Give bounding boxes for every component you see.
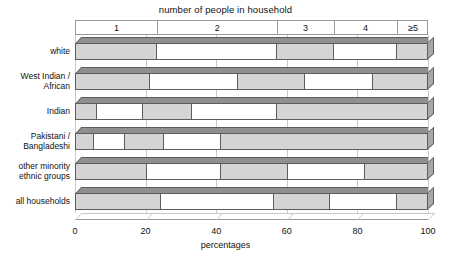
- bar-segment[interactable]: [150, 74, 238, 89]
- bar-side-face-shape: [427, 37, 434, 60]
- bar-front-face: [75, 133, 428, 150]
- category-header-divider: [277, 21, 278, 34]
- x-axis-line: [75, 219, 428, 220]
- bar-segment[interactable]: [157, 44, 277, 59]
- category-header-label: ≥5: [408, 23, 418, 33]
- bar-row: [75, 157, 428, 181]
- bar-row: [75, 127, 428, 151]
- bar-segment[interactable]: [76, 164, 147, 179]
- category-header-divider: [397, 21, 398, 34]
- x-axis-tick-label: 0: [72, 226, 77, 236]
- x-axis-tick-label: 40: [211, 226, 221, 236]
- y-axis-category-label-line: Pakistani /: [0, 131, 70, 141]
- x-axis-tick-label: 20: [141, 226, 151, 236]
- bar-side-face-shape: [427, 187, 434, 210]
- bar-segment[interactable]: [97, 104, 143, 119]
- x-axis-top-edge: [82, 213, 435, 214]
- bar-segment[interactable]: [373, 74, 429, 89]
- y-axis-category-label: all households: [0, 196, 70, 206]
- bar-front-face: [75, 163, 428, 180]
- bar-row: [75, 37, 428, 61]
- category-header-label: 3: [303, 23, 308, 33]
- bar-segment[interactable]: [274, 194, 330, 209]
- bar-front-face: [75, 193, 428, 210]
- bar-side-face: [427, 67, 435, 91]
- bar-segment[interactable]: [238, 74, 305, 89]
- bar-side-face-shape: [427, 157, 434, 180]
- y-axis-category-label-line: Indian: [0, 106, 70, 116]
- x-axis-tick-label: 60: [282, 226, 292, 236]
- category-header-band: 1234≥5: [75, 20, 428, 35]
- category-header-cell: 3: [277, 21, 333, 34]
- bar-segment[interactable]: [76, 104, 97, 119]
- bar-segment[interactable]: [76, 134, 94, 149]
- bar-side-face: [427, 37, 435, 61]
- bar-side-face: [427, 187, 435, 211]
- bar-side-face: [427, 127, 435, 151]
- bar-segment[interactable]: [125, 134, 164, 149]
- y-axis-category-label: Indian: [0, 106, 70, 116]
- category-header-label: 1: [114, 23, 119, 33]
- bar-segment[interactable]: [305, 74, 372, 89]
- bar-segment[interactable]: [397, 194, 429, 209]
- bar-segment[interactable]: [221, 134, 429, 149]
- bar-front-face: [75, 103, 428, 120]
- bar-side-face: [427, 157, 435, 181]
- x-axis-band: [75, 213, 428, 225]
- bar-segment[interactable]: [288, 164, 366, 179]
- bar-front-face: [75, 73, 428, 90]
- category-header-label: 4: [363, 23, 368, 33]
- category-header-cell: 1: [76, 21, 157, 34]
- bar-segment[interactable]: [164, 134, 220, 149]
- category-header-divider: [334, 21, 335, 34]
- y-axis-category-label: other minorityethnic groups: [0, 161, 70, 181]
- category-header-divider: [157, 21, 158, 34]
- category-header-cell: 4: [334, 21, 398, 34]
- chart-title: number of people in household: [0, 4, 451, 15]
- category-header-cell: 2: [157, 21, 277, 34]
- bar-segment[interactable]: [397, 44, 429, 59]
- bar-segment[interactable]: [277, 104, 429, 119]
- y-axis-category-label-line: other minority: [0, 161, 70, 171]
- bar-side-face-shape: [427, 67, 434, 90]
- y-axis-category-label-line: West Indian /: [0, 71, 70, 81]
- y-axis-category-label-line: white: [0, 46, 70, 56]
- bar-row: [75, 97, 428, 121]
- bar-segment[interactable]: [147, 164, 221, 179]
- bar-segment[interactable]: [334, 44, 398, 59]
- bar-side-face-shape: [427, 127, 434, 150]
- y-axis-category-label-line: Bangladeshi: [0, 141, 70, 151]
- category-header-label: 2: [215, 23, 220, 33]
- y-axis-category-label: West Indian /African: [0, 71, 70, 91]
- y-axis-category-label-line: ethnic groups: [0, 171, 70, 181]
- bar-front-face: [75, 43, 428, 60]
- y-axis-category-label: white: [0, 46, 70, 56]
- plot-area: [75, 35, 428, 213]
- x-axis-title: percentages: [0, 240, 451, 250]
- y-axis-category-label-line: African: [0, 81, 70, 91]
- bar-segment[interactable]: [277, 44, 333, 59]
- bar-side-face: [427, 97, 435, 121]
- bar-segment[interactable]: [143, 104, 192, 119]
- x-axis-tick-label: 100: [420, 226, 435, 236]
- bar-segment[interactable]: [76, 194, 161, 209]
- bar-segment[interactable]: [330, 194, 397, 209]
- bar-segment[interactable]: [365, 164, 429, 179]
- y-axis-category-label: Pakistani /Bangladeshi: [0, 131, 70, 151]
- bar-segment[interactable]: [76, 74, 150, 89]
- bar-segment[interactable]: [161, 194, 274, 209]
- x-axis-riser: [428, 213, 435, 220]
- bar-segment[interactable]: [94, 134, 126, 149]
- y-axis-category-label-line: all households: [0, 196, 70, 206]
- bar-row: [75, 187, 428, 211]
- bar-segment[interactable]: [76, 44, 157, 59]
- category-header-cell: ≥5: [397, 21, 429, 34]
- bar-row: [75, 67, 428, 91]
- bar-segment[interactable]: [221, 164, 288, 179]
- x-axis-tick-label: 80: [352, 226, 362, 236]
- chart-root: number of people in household 1234≥5 per…: [0, 0, 451, 256]
- bar-segment[interactable]: [192, 104, 277, 119]
- bar-side-face-shape: [427, 97, 434, 120]
